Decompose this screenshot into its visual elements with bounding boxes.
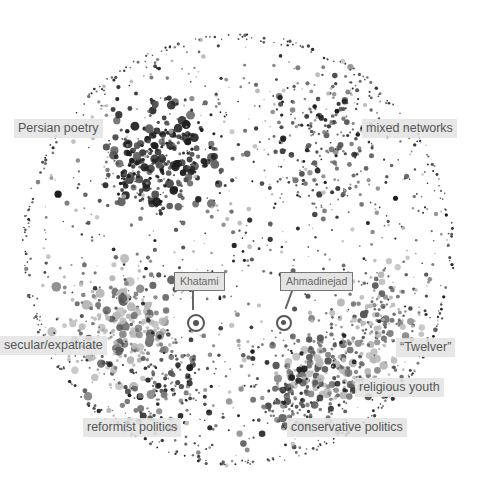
- network-node: [375, 210, 380, 215]
- network-node: [166, 170, 172, 176]
- network-node: [318, 382, 321, 385]
- network-node: [135, 371, 137, 373]
- network-node: [160, 145, 163, 148]
- network-node: [273, 103, 276, 106]
- network-node: [204, 243, 206, 245]
- network-node: [367, 282, 369, 284]
- network-node: [134, 195, 137, 198]
- network-node: [217, 354, 220, 357]
- network-node: [69, 361, 71, 363]
- network-node: [334, 294, 336, 296]
- network-node: [320, 147, 323, 150]
- network-node: [246, 340, 249, 343]
- network-node: [148, 234, 150, 236]
- network-node: [290, 155, 292, 157]
- network-node: [313, 84, 315, 86]
- network-node: [174, 439, 177, 442]
- network-node: [270, 110, 275, 115]
- label-secular-expatriate: secular/expatriate: [0, 336, 107, 355]
- network-node: [168, 166, 172, 170]
- network-node: [307, 246, 309, 248]
- network-node: [332, 160, 337, 165]
- network-node: [132, 170, 134, 172]
- network-node: [352, 122, 355, 125]
- network-node: [352, 380, 354, 382]
- network-node: [228, 34, 230, 36]
- network-node: [412, 372, 414, 374]
- network-node: [160, 154, 164, 158]
- network-node: [303, 160, 306, 163]
- network-node: [431, 163, 434, 166]
- network-node: [315, 404, 318, 407]
- network-node: [43, 167, 45, 169]
- network-node: [437, 320, 439, 322]
- network-node: [418, 306, 420, 308]
- network-node: [299, 171, 305, 177]
- network-node: [149, 75, 153, 79]
- network-node: [395, 264, 401, 270]
- network-node: [328, 258, 331, 261]
- network-node: [123, 264, 125, 266]
- network-node: [215, 105, 218, 108]
- network-node: [130, 149, 132, 151]
- network-node: [312, 104, 317, 109]
- network-node: [46, 254, 51, 259]
- network-node: [291, 100, 295, 104]
- network-node: [354, 157, 356, 159]
- network-node: [74, 208, 78, 212]
- network-node: [366, 221, 370, 225]
- network-node: [311, 370, 314, 373]
- network-node: [100, 409, 102, 411]
- network-node: [249, 463, 251, 465]
- network-node: [119, 317, 126, 324]
- network-node: [146, 318, 151, 323]
- network-node: [185, 373, 188, 376]
- network-node: [114, 379, 116, 381]
- network-node: [108, 406, 110, 408]
- network-node: [132, 320, 135, 323]
- network-node: [30, 187, 32, 189]
- network-node: [357, 131, 359, 133]
- network-node: [268, 138, 270, 140]
- network-node: [144, 267, 148, 271]
- network-node: [373, 414, 376, 417]
- network-node: [252, 419, 254, 421]
- network-node: [356, 173, 358, 175]
- callout-ahmadinejad: Ahmadinejad: [280, 272, 353, 291]
- network-node: [206, 367, 209, 370]
- network-node: [296, 194, 298, 196]
- network-node: [368, 141, 371, 144]
- network-node: [239, 86, 242, 89]
- network-node: [364, 332, 367, 335]
- network-node: [241, 270, 243, 272]
- network-node: [243, 64, 246, 67]
- network-node: [217, 210, 219, 212]
- network-node: [334, 113, 337, 116]
- network-node: [433, 240, 435, 242]
- network-node: [110, 387, 112, 389]
- network-node: [199, 126, 203, 130]
- network-node: [163, 377, 167, 381]
- network-node: [151, 191, 159, 199]
- network-node: [195, 389, 198, 392]
- network-node: [189, 393, 192, 396]
- network-node: [260, 40, 262, 42]
- network-node: [352, 87, 354, 89]
- network-node: [198, 368, 200, 370]
- network-node: [159, 358, 163, 362]
- network-node: [273, 42, 275, 44]
- network-node: [218, 297, 221, 300]
- network-node: [293, 259, 295, 261]
- network-node: [336, 375, 339, 378]
- network-node: [446, 239, 448, 241]
- network-node: [216, 181, 219, 184]
- network-node: [71, 383, 73, 385]
- network-node: [193, 175, 197, 179]
- network-node: [315, 72, 320, 77]
- network-node: [438, 178, 440, 180]
- network-node: [314, 236, 317, 239]
- network-node: [143, 296, 145, 298]
- network-node: [41, 161, 44, 164]
- network-node: [260, 181, 265, 186]
- network-node: [390, 164, 394, 168]
